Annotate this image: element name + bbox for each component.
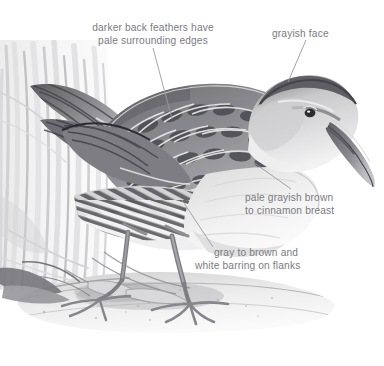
bird-field-guide-figure: darker back feathers have pale surroundi… [0,0,384,366]
label-line-1: grayish face [272,27,352,40]
label-line-1: gray to brown and [214,246,344,259]
label-line-1: pale grayish brown [245,191,365,204]
flank-barring-label: gray to brown and white barring on flank… [214,246,344,272]
label-line-2: pale surrounding edges [92,34,214,47]
label-line-2: to cinnamon breast [245,204,365,217]
grayish-face-label: grayish face [272,27,352,40]
bird-head [248,75,358,172]
label-line-1: darker back feathers have [92,21,214,34]
breast-color-label: pale grayish brown to cinnamon breast [245,191,365,217]
label-line-2: white barring on flanks [195,259,344,272]
bird-illustration [0,0,384,366]
darker-back-feathers-label: darker back feathers have pale surroundi… [92,21,214,47]
